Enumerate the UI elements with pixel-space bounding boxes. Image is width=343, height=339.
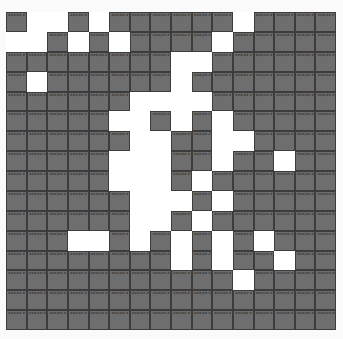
empty-cell[interactable] <box>109 151 130 171</box>
empty-cell[interactable] <box>27 12 48 32</box>
filled-cell[interactable]: ###|##.# <box>254 92 275 112</box>
filled-cell[interactable]: ###|##.# <box>27 251 48 271</box>
filled-cell[interactable]: ###|##.# <box>47 111 68 131</box>
filled-cell[interactable]: ###|##.# <box>315 211 336 231</box>
filled-cell[interactable]: ###|##.# <box>6 270 27 290</box>
empty-cell[interactable] <box>109 171 130 191</box>
empty-cell[interactable] <box>171 92 192 112</box>
filled-cell[interactable]: ###|##.# <box>295 310 316 330</box>
filled-cell[interactable]: ###|##.# <box>150 52 171 72</box>
filled-cell[interactable]: ###|##.# <box>150 231 171 251</box>
filled-cell[interactable]: ###|##.# <box>27 111 48 131</box>
empty-cell[interactable] <box>89 231 110 251</box>
filled-cell[interactable]: ###|##.# <box>315 111 336 131</box>
filled-cell[interactable]: ###|##.# <box>47 251 68 271</box>
filled-cell[interactable]: ###|##.# <box>89 131 110 151</box>
filled-cell[interactable]: ###|##.# <box>130 290 151 310</box>
filled-cell[interactable]: ###|##.# <box>27 310 48 330</box>
filled-cell[interactable]: ###|##.# <box>274 131 295 151</box>
filled-cell[interactable]: ###|##.# <box>47 270 68 290</box>
filled-cell[interactable]: ###|##.# <box>212 270 233 290</box>
filled-cell[interactable]: ###|##.# <box>315 52 336 72</box>
filled-cell[interactable]: ###|##.# <box>233 111 254 131</box>
filled-cell[interactable]: ###|##.# <box>89 32 110 52</box>
filled-cell[interactable]: ###|##.# <box>47 32 68 52</box>
filled-cell[interactable]: ###|##.# <box>192 151 213 171</box>
filled-cell[interactable]: ###|##.# <box>150 111 171 131</box>
filled-cell[interactable]: ###|##.# <box>212 72 233 92</box>
empty-cell[interactable] <box>150 131 171 151</box>
filled-cell[interactable]: ###|##.# <box>6 171 27 191</box>
filled-cell[interactable]: ###|##.# <box>27 131 48 151</box>
filled-cell[interactable]: ###|##.# <box>315 310 336 330</box>
filled-cell[interactable]: ###|##.# <box>109 52 130 72</box>
filled-cell[interactable]: ###|##.# <box>192 12 213 32</box>
filled-cell[interactable]: ###|##.# <box>315 72 336 92</box>
empty-cell[interactable] <box>150 191 171 211</box>
filled-cell[interactable]: ###|##.# <box>89 191 110 211</box>
filled-cell[interactable]: ###|##.# <box>171 310 192 330</box>
filled-cell[interactable]: ###|##.# <box>233 290 254 310</box>
empty-cell[interactable] <box>212 111 233 131</box>
filled-cell[interactable]: ###|##.# <box>27 231 48 251</box>
empty-cell[interactable] <box>171 251 192 271</box>
filled-cell[interactable]: ###|##.# <box>295 12 316 32</box>
filled-cell[interactable]: ###|##.# <box>315 92 336 112</box>
filled-cell[interactable]: ###|##.# <box>295 191 316 211</box>
filled-cell[interactable]: ###|##.# <box>274 111 295 131</box>
empty-cell[interactable] <box>254 231 275 251</box>
filled-cell[interactable]: ###|##.# <box>27 92 48 112</box>
empty-cell[interactable] <box>130 191 151 211</box>
filled-cell[interactable]: ###|##.# <box>233 251 254 271</box>
filled-cell[interactable]: ###|##.# <box>68 52 89 72</box>
empty-cell[interactable] <box>130 171 151 191</box>
filled-cell[interactable]: ###|##.# <box>68 12 89 32</box>
filled-cell[interactable]: ###|##.# <box>68 151 89 171</box>
filled-cell[interactable]: ###|##.# <box>192 191 213 211</box>
filled-cell[interactable]: ###|##.# <box>150 310 171 330</box>
empty-cell[interactable] <box>130 131 151 151</box>
filled-cell[interactable]: ###|##.# <box>89 290 110 310</box>
filled-cell[interactable]: ###|##.# <box>192 72 213 92</box>
filled-cell[interactable]: ###|##.# <box>150 290 171 310</box>
filled-cell[interactable]: ###|##.# <box>274 12 295 32</box>
empty-cell[interactable] <box>212 151 233 171</box>
empty-cell[interactable] <box>47 12 68 32</box>
filled-cell[interactable]: ###|##.# <box>315 151 336 171</box>
empty-cell[interactable] <box>212 191 233 211</box>
filled-cell[interactable]: ###|##.# <box>68 171 89 191</box>
filled-cell[interactable]: ###|##.# <box>6 72 27 92</box>
filled-cell[interactable]: ###|##.# <box>68 72 89 92</box>
empty-cell[interactable] <box>212 251 233 271</box>
filled-cell[interactable]: ###|##.# <box>109 270 130 290</box>
filled-cell[interactable]: ###|##.# <box>315 251 336 271</box>
filled-cell[interactable]: ###|##.# <box>274 290 295 310</box>
filled-cell[interactable]: ###|##.# <box>192 270 213 290</box>
filled-cell[interactable]: ###|##.# <box>171 211 192 231</box>
filled-cell[interactable]: ###|##.# <box>295 270 316 290</box>
filled-cell[interactable]: ###|##.# <box>6 290 27 310</box>
filled-cell[interactable]: ###|##.# <box>274 310 295 330</box>
empty-cell[interactable] <box>233 12 254 32</box>
filled-cell[interactable]: ###|##.# <box>68 211 89 231</box>
filled-cell[interactable]: ###|##.# <box>68 251 89 271</box>
empty-cell[interactable] <box>171 52 192 72</box>
filled-cell[interactable]: ###|##.# <box>233 191 254 211</box>
empty-cell[interactable] <box>130 151 151 171</box>
filled-cell[interactable]: ###|##.# <box>27 151 48 171</box>
filled-cell[interactable]: ###|##.# <box>254 191 275 211</box>
filled-cell[interactable]: ###|##.# <box>212 171 233 191</box>
empty-cell[interactable] <box>27 32 48 52</box>
filled-cell[interactable]: ###|##.# <box>47 72 68 92</box>
filled-cell[interactable]: ###|##.# <box>109 72 130 92</box>
filled-cell[interactable]: ###|##.# <box>150 32 171 52</box>
filled-cell[interactable]: ###|##.# <box>295 171 316 191</box>
empty-cell[interactable] <box>192 171 213 191</box>
filled-cell[interactable]: ###|##.# <box>315 231 336 251</box>
filled-cell[interactable]: ###|##.# <box>89 211 110 231</box>
filled-cell[interactable]: ###|##.# <box>130 32 151 52</box>
filled-cell[interactable]: ###|##.# <box>6 251 27 271</box>
empty-cell[interactable] <box>171 191 192 211</box>
empty-cell[interactable] <box>192 52 213 72</box>
filled-cell[interactable]: ###|##.# <box>68 191 89 211</box>
